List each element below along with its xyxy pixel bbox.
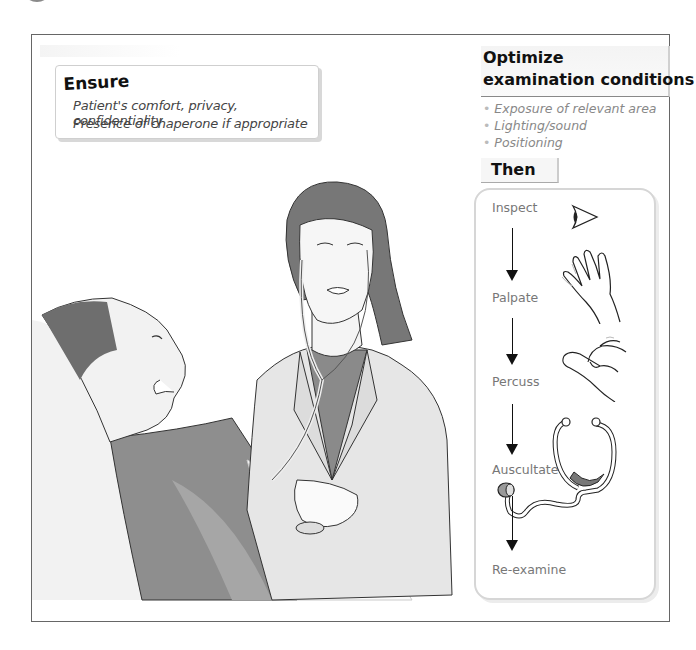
then-heading: Then <box>481 158 559 183</box>
then-label: Then <box>491 160 536 179</box>
optimize-heading: Optimize examination conditions <box>481 46 670 97</box>
step-inspect: Inspect <box>492 200 538 215</box>
optimize-title-line1: Optimize <box>483 48 564 67</box>
step-palpate: Palpate <box>492 290 538 305</box>
ensure-item: Presence of chaperone if appropriate <box>73 116 308 131</box>
fingers-tapping-icon <box>560 336 630 402</box>
background-haze <box>40 45 180 57</box>
bullet-item: Exposure of relevant area <box>483 100 657 117</box>
eye-icon <box>570 204 600 230</box>
optimize-title-line2: examination conditions <box>483 70 694 89</box>
stethoscope-icon <box>486 412 636 522</box>
bullet-item: Lighting/sound <box>483 117 657 134</box>
ensure-title: Ensure <box>63 71 130 94</box>
optimize-bullet-list: Exposure of relevant area Lighting/sound… <box>483 100 657 151</box>
doctor-patient-illustration <box>32 180 472 620</box>
examination-steps-panel: Inspect Palpate Percuss Auscultate <box>474 188 656 600</box>
ensure-callout: Ensure Patient's comfort, privacy, confi… <box>55 65 319 139</box>
hand-icon <box>560 244 630 324</box>
bullet-item: Positioning <box>483 134 657 151</box>
step-percuss: Percuss <box>492 374 539 389</box>
chapter-badge <box>22 0 52 2</box>
step-re-examine: Re-examine <box>492 562 566 577</box>
